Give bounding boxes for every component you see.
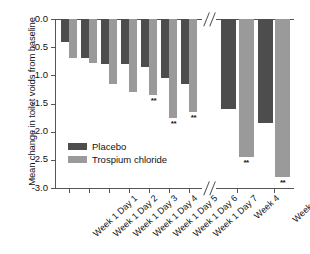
- y-axis-tick-label: -1.0: [32, 69, 48, 80]
- y-axis-tick-label: -2.5: [32, 153, 48, 164]
- y-axis-tick: -2.0: [51, 132, 56, 133]
- significance-marker: **: [149, 97, 157, 105]
- chart-legend: PlaceboTrospium chloride: [68, 140, 167, 166]
- x-axis-tick: [129, 188, 130, 193]
- x-axis-tick: [69, 188, 70, 193]
- y-axis-tick: -3.0: [51, 188, 56, 189]
- significance-marker: **: [239, 159, 254, 167]
- axis-bottom-line: [56, 188, 294, 189]
- y-axis-tick-label: 0.0: [35, 13, 48, 24]
- bar: [258, 19, 273, 123]
- y-axis-tick: -1.0: [51, 75, 56, 76]
- legend-item: Trospium chloride: [68, 153, 167, 166]
- x-axis-tick-label: Week 12: [290, 193, 310, 224]
- legend-item: Placebo: [68, 140, 167, 153]
- legend-label: Placebo: [92, 141, 126, 152]
- y-axis-tick: -0.5: [51, 47, 56, 48]
- y-axis-tick-label: -2.0: [32, 125, 48, 136]
- bar: [161, 19, 169, 78]
- x-axis-tick: [89, 188, 90, 193]
- bar: [149, 19, 157, 95]
- chart-figure: Mean change in toilet voids from baselin…: [0, 0, 310, 254]
- y-axis-tick: -1.5: [51, 104, 56, 105]
- y-axis-tick: 0.0: [51, 19, 56, 20]
- bar: [141, 19, 149, 67]
- legend-label: Trospium chloride: [92, 154, 167, 165]
- bar: [275, 19, 290, 177]
- bar: [89, 19, 97, 63]
- bar: [81, 19, 89, 58]
- y-axis-tick-label: -1.5: [32, 97, 48, 108]
- bar: [239, 19, 254, 157]
- bar: [121, 19, 129, 64]
- significance-marker: **: [169, 120, 177, 128]
- bar: [169, 19, 177, 118]
- bar: [69, 19, 77, 58]
- significance-marker: **: [189, 114, 197, 122]
- x-axis-tick: [237, 188, 238, 193]
- bar: [61, 19, 69, 42]
- x-axis-tick: [109, 188, 110, 193]
- bar: [189, 19, 197, 112]
- y-axis-tick: -2.5: [51, 160, 56, 161]
- bar: [129, 19, 137, 92]
- legend-swatch: [68, 156, 87, 163]
- bar: [181, 19, 189, 84]
- significance-marker: **: [275, 179, 290, 187]
- y-axis-tick-label: -3.0: [32, 182, 48, 193]
- legend-swatch: [68, 143, 87, 150]
- bar: [221, 19, 236, 109]
- x-axis-tick: [169, 188, 170, 193]
- x-axis-tick: [189, 188, 190, 193]
- y-axis-tick-label: -0.5: [32, 41, 48, 52]
- x-axis-tick: [149, 188, 150, 193]
- bar: [101, 19, 109, 64]
- bar: [109, 19, 117, 84]
